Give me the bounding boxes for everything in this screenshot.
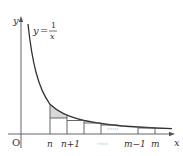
y-axis-arrow-icon	[19, 16, 23, 22]
rectangles	[50, 104, 155, 134]
y-axis-label: y	[12, 15, 19, 26]
tick-label-dots: ······	[97, 140, 109, 147]
origin-label: O	[12, 137, 20, 148]
curve-label-denominator: x	[50, 32, 55, 41]
x-axis-label: x	[174, 137, 180, 148]
curve-label-eq: =	[40, 25, 48, 36]
tick-label-n: n	[47, 139, 53, 149]
curve-label-numerator: 1	[51, 21, 56, 30]
hyperbola-diagram: ······ y x O y = 1 x n n+1 ······ m−1 m	[0, 0, 183, 156]
x-axis-arrow-icon	[169, 132, 175, 136]
tick-label-n-plus-1: n+1	[61, 139, 80, 149]
tick-label-m-minus-1: m−1	[124, 139, 146, 149]
middle-dots: ······	[107, 125, 119, 132]
curve-label-lhs: y	[32, 25, 39, 36]
tick-label-m: m	[151, 139, 160, 149]
